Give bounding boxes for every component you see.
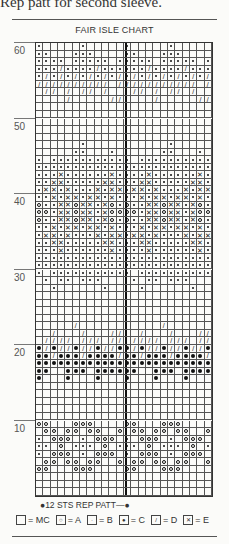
small-dot-icon bbox=[133, 181, 135, 183]
small-dot-icon bbox=[89, 166, 91, 168]
chart-cell bbox=[95, 209, 102, 217]
chart-cell bbox=[102, 254, 109, 262]
chart-cell bbox=[87, 405, 94, 413]
chart-cell bbox=[131, 466, 138, 474]
chart-cell bbox=[43, 488, 50, 496]
chart-cell bbox=[73, 390, 80, 398]
chart-cell bbox=[153, 51, 160, 59]
chart-cell bbox=[73, 428, 80, 436]
legend-item-small-dot: ·= B bbox=[87, 515, 113, 525]
cross-icon: ✕ bbox=[65, 224, 71, 231]
chart-cell bbox=[65, 277, 72, 285]
chart-cell bbox=[153, 247, 160, 255]
chart-cell bbox=[43, 466, 50, 474]
small-dot-icon bbox=[126, 234, 128, 236]
chart-cell bbox=[131, 481, 138, 489]
chart-cell bbox=[58, 307, 65, 315]
small-dot-icon bbox=[104, 257, 106, 259]
chart-cell bbox=[146, 360, 153, 368]
chart-cell bbox=[65, 473, 72, 481]
chart-cell bbox=[51, 368, 58, 376]
chart-cell bbox=[43, 103, 50, 111]
chart-cell bbox=[146, 436, 153, 444]
ring-icon bbox=[110, 452, 114, 456]
cross-icon: ✕ bbox=[102, 216, 108, 223]
chart-cell bbox=[131, 413, 138, 421]
chart-cell: ✕ bbox=[197, 247, 204, 255]
chart-cell bbox=[109, 292, 116, 300]
small-dot-icon bbox=[163, 159, 165, 161]
slash-icon: / bbox=[148, 73, 150, 80]
small-dot-icon bbox=[148, 234, 150, 236]
ring-icon bbox=[125, 203, 129, 207]
cross-icon: ✕ bbox=[205, 232, 211, 239]
chart-cell: / bbox=[183, 66, 190, 74]
ring-icon bbox=[140, 429, 144, 433]
large-dot-icon bbox=[96, 346, 100, 350]
large-dot-icon bbox=[132, 354, 136, 358]
small-dot-icon bbox=[104, 264, 106, 266]
chart-cell bbox=[153, 383, 160, 391]
chart-cell bbox=[190, 111, 197, 119]
small-dot-icon bbox=[38, 53, 40, 55]
chart-cell bbox=[205, 368, 212, 376]
ring-icon bbox=[66, 429, 70, 433]
legend: = MC○= A·= B●= C/= D✕= E bbox=[16, 515, 213, 525]
chart-cell bbox=[87, 103, 94, 111]
chart-cell bbox=[43, 300, 50, 308]
small-dot-icon bbox=[45, 181, 47, 183]
chart-cell bbox=[190, 360, 197, 368]
chart-cell bbox=[73, 360, 80, 368]
small-dot-icon bbox=[97, 249, 99, 251]
small-dot-icon bbox=[75, 181, 77, 183]
chart-cell bbox=[36, 368, 43, 376]
chart-cell bbox=[161, 232, 168, 240]
chart-cell bbox=[51, 126, 58, 134]
chart-cell bbox=[190, 96, 197, 104]
chart-cell bbox=[168, 254, 175, 262]
chart-cell bbox=[175, 466, 182, 474]
chart-cell bbox=[51, 315, 58, 323]
chart-cell bbox=[190, 134, 197, 142]
chart-cell bbox=[95, 141, 102, 149]
chart-cell bbox=[36, 202, 43, 210]
chart-cell bbox=[131, 458, 138, 466]
cross-icon: ✕ bbox=[43, 232, 49, 239]
chart-cell: ✕ bbox=[146, 217, 153, 225]
slash-icon: / bbox=[68, 337, 70, 344]
ring-icon bbox=[37, 467, 41, 471]
chart-cell: ✕ bbox=[139, 239, 146, 247]
small-dot-icon bbox=[199, 257, 201, 259]
chart-cell bbox=[43, 473, 50, 481]
chart-cell bbox=[58, 360, 65, 368]
ring-icon bbox=[198, 452, 202, 456]
large-dot-icon bbox=[96, 369, 100, 373]
chart-cell bbox=[183, 405, 190, 413]
cross-icon: ✕ bbox=[153, 201, 159, 208]
chart-cell bbox=[80, 488, 87, 496]
chart-cell bbox=[80, 285, 87, 293]
ring-icon bbox=[103, 437, 107, 441]
chart-cell bbox=[102, 458, 109, 466]
small-dot-icon bbox=[45, 53, 47, 55]
large-dot-icon bbox=[118, 361, 122, 365]
legend-label: = MC bbox=[28, 515, 50, 525]
chart-cell bbox=[153, 473, 160, 481]
chart-cell bbox=[117, 202, 124, 210]
chart-cell: / bbox=[58, 345, 65, 353]
small-dot-icon bbox=[126, 189, 128, 191]
chart-cell bbox=[43, 390, 50, 398]
large-dot-icon bbox=[198, 369, 202, 373]
chart-cell bbox=[124, 224, 131, 232]
small-dot-icon bbox=[207, 166, 209, 168]
chart-cell bbox=[139, 96, 146, 104]
small-dot-icon bbox=[38, 226, 40, 228]
chart-cell bbox=[95, 405, 102, 413]
chart-cell bbox=[168, 134, 175, 142]
chart-cell bbox=[87, 292, 94, 300]
chart-cell bbox=[36, 292, 43, 300]
small-dot-icon bbox=[148, 272, 150, 274]
chart-cell bbox=[58, 421, 65, 429]
small-dot-icon bbox=[75, 189, 77, 191]
small-dot-icon bbox=[133, 264, 135, 266]
